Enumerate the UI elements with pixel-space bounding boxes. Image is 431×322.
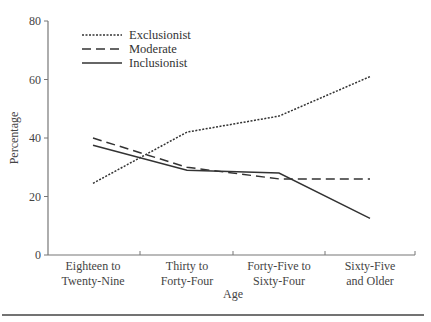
legend-label: Exclusionist [129, 28, 191, 42]
x-category-label: Forty-Four [161, 274, 214, 288]
x-category-label: Twenty-Nine [61, 274, 124, 288]
legend: ExclusionistModerateInclusionist [82, 28, 191, 70]
y-tick-label: 80 [29, 14, 41, 28]
legend-label: Inclusionist [129, 56, 188, 70]
series-lines [93, 77, 370, 219]
y-tick-label: 40 [29, 131, 41, 145]
y-axis-title: Percentage [7, 112, 21, 165]
y-tick-label: 0 [35, 248, 41, 262]
line-chart: 020406080 Eighteen toTwenty-NineThirty t… [0, 0, 431, 322]
x-axis-title: Age [223, 287, 243, 301]
x-category-label: Thirty to [166, 259, 208, 273]
x-category-label: Sixty-Four [253, 274, 305, 288]
x-category-label: Forty-Five to [247, 259, 311, 273]
y-tick-label: 60 [29, 73, 41, 87]
y-tick-label: 20 [29, 190, 41, 204]
series-line-inclusionist [93, 145, 370, 218]
y-axis: 020406080 [29, 14, 48, 262]
series-line-exclusionist [93, 77, 370, 184]
x-category-label: and Older [346, 274, 394, 288]
x-category-label: Sixty-Five [345, 259, 396, 273]
series-line-moderate [93, 138, 370, 179]
x-category-label: Eighteen to [66, 259, 121, 273]
legend-label: Moderate [129, 42, 177, 56]
x-axis: Eighteen toTwenty-NineThirty toForty-Fou… [48, 251, 415, 288]
